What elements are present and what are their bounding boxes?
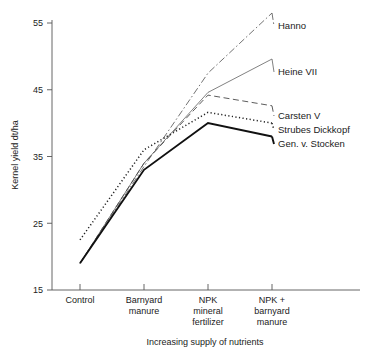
series-line-carsten-v [80, 95, 272, 263]
series-label-hanno: Hanno [278, 20, 306, 31]
series-leader-gen-v-stocken [272, 137, 274, 145]
x-category-label: NPK + [259, 295, 285, 305]
series-line-heine-vii [80, 59, 272, 263]
series-label-gen-v-stocken: Gen. v. Stocken [278, 138, 345, 149]
x-axis-ticks [80, 284, 272, 290]
series-leader-heine-vii [272, 59, 274, 72]
category-labels: ControlBarnyardmanureNPKmineralfertilize… [65, 295, 289, 327]
x-category-label: fertilizer [192, 317, 224, 327]
series-label-strubes-dickkopf: Strubes Dickkopf [278, 124, 350, 135]
y-axis-ticks: 1525354555 [33, 18, 52, 295]
series-leader-strubes-dickkopf [272, 123, 274, 130]
x-axis-title: Increasing supply of nutrients [146, 337, 264, 347]
series-leader-hanno [272, 13, 274, 26]
y-tick-label: 55 [33, 18, 43, 28]
x-category-label: Control [65, 295, 94, 305]
series-line-gen-v-stocken [80, 123, 272, 263]
series-labels: HannoHeine VIICarsten VStrubes DickkopfG… [278, 20, 350, 149]
y-axis-title: Kernel yield dt/ha [10, 120, 20, 190]
series-label-heine-vii: Heine VII [278, 66, 317, 77]
series-line-hanno [80, 13, 272, 263]
y-tick-label: 35 [33, 152, 43, 162]
y-tick-label: 25 [33, 219, 43, 229]
x-category-label: NPK [199, 295, 218, 305]
kernel-yield-line-chart: 1525354555 HannoHeine VIICarsten VStrube… [0, 0, 370, 354]
y-tick-label: 15 [33, 285, 43, 295]
y-tick-label: 45 [33, 85, 43, 95]
x-category-label: manure [257, 317, 288, 327]
chart-container: 1525354555 HannoHeine VIICarsten VStrube… [0, 0, 370, 354]
x-category-label: Barnyard [126, 295, 163, 305]
series-label-carsten-v: Carsten V [278, 110, 321, 121]
x-category-label: manure [129, 306, 160, 316]
x-category-label: mineral [193, 306, 223, 316]
series-leader-carsten-v [272, 106, 274, 116]
x-category-label: barnyard [254, 306, 290, 316]
series-lines [80, 13, 274, 263]
